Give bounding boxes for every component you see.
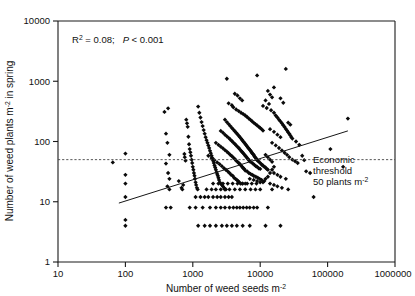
data-point xyxy=(294,139,298,143)
data-point xyxy=(223,205,227,209)
x-tick-label-10000: 10000 xyxy=(247,268,273,279)
x-tick-label-100000: 100000 xyxy=(312,268,344,279)
threshold-label-line2: threshold xyxy=(313,165,352,176)
data-point xyxy=(281,101,285,105)
data-point xyxy=(123,181,127,185)
data-point xyxy=(267,102,271,106)
data-point xyxy=(311,195,315,199)
data-point xyxy=(204,187,208,191)
data-point xyxy=(199,120,203,124)
data-point xyxy=(269,108,273,112)
data-point xyxy=(111,160,115,164)
data-point xyxy=(280,186,284,190)
data-point xyxy=(238,187,242,191)
x-axis-title-base: Number of weed seeds m xyxy=(166,283,280,294)
data-point xyxy=(274,143,278,147)
data-point xyxy=(255,73,259,77)
data-point xyxy=(203,224,207,228)
x-axis-title-exponent: -2 xyxy=(280,283,286,290)
data-point xyxy=(220,224,224,228)
y-tick-label-10: 10 xyxy=(39,196,50,207)
data-point xyxy=(211,181,215,185)
data-point xyxy=(223,195,227,199)
data-point xyxy=(265,106,269,110)
data-point xyxy=(241,224,245,228)
data-point xyxy=(235,224,239,228)
data-point xyxy=(206,195,210,199)
data-point xyxy=(196,224,200,228)
data-point xyxy=(203,195,207,199)
data-point xyxy=(188,205,192,209)
data-point xyxy=(266,89,270,93)
data-point xyxy=(227,187,231,191)
y-tick-label-10000: 10000 xyxy=(24,15,50,26)
p-value-rest: < 0.001 xyxy=(129,34,164,45)
data-point xyxy=(219,195,223,199)
data-point xyxy=(308,171,312,175)
data-point-group xyxy=(111,67,350,228)
x-axis-tick-labels: 10 100 1000 10000 100000 1000000 xyxy=(53,268,412,279)
economic-threshold-label: Economic threshold 50 plants m-2 xyxy=(313,154,368,187)
threshold-label-line3-base: 50 plants m xyxy=(313,176,362,187)
data-point xyxy=(211,195,215,199)
data-point xyxy=(185,121,189,125)
data-point xyxy=(272,171,276,175)
data-point xyxy=(200,205,204,209)
data-point xyxy=(284,67,288,71)
data-point xyxy=(346,116,350,120)
threshold-label-line3-exponent: -2 xyxy=(362,176,368,183)
data-point xyxy=(166,171,170,175)
data-point xyxy=(243,187,247,191)
data-point xyxy=(167,153,171,157)
data-point xyxy=(214,187,218,191)
data-point xyxy=(277,146,281,150)
data-point xyxy=(302,158,306,162)
y-axis-title-base1: Number of weed plants m xyxy=(4,107,15,221)
data-point xyxy=(202,128,206,132)
data-point xyxy=(186,125,190,129)
data-point xyxy=(123,218,127,222)
statistics-annotation: R2 = 0.08;P < 0.001 xyxy=(72,34,164,46)
data-point xyxy=(328,147,332,151)
data-point xyxy=(278,96,282,100)
data-point xyxy=(278,224,282,228)
y-tick-label-100: 100 xyxy=(34,136,50,147)
x-tick-label-1000: 1000 xyxy=(182,268,203,279)
plot-svg: 1 10 100 1000 10000 10 100 1000 10000 10… xyxy=(0,0,415,296)
data-point xyxy=(278,135,282,139)
data-point xyxy=(164,205,168,209)
data-point xyxy=(248,205,252,209)
data-point xyxy=(191,168,195,172)
data-point xyxy=(189,154,193,158)
y-axis-title-base2: in spring xyxy=(4,61,15,102)
threshold-label-line3: 50 plants m-2 xyxy=(313,176,368,188)
data-point xyxy=(272,130,276,134)
data-point xyxy=(167,177,171,181)
y-tick-label-1: 1 xyxy=(45,256,50,267)
data-point xyxy=(186,135,190,139)
data-point xyxy=(270,187,274,191)
data-point xyxy=(268,181,272,185)
data-point xyxy=(226,181,230,185)
data-point xyxy=(193,205,197,209)
data-point xyxy=(227,205,231,209)
data-point xyxy=(187,142,191,146)
data-point xyxy=(266,205,270,209)
x-axis-ticks xyxy=(58,262,395,267)
data-point xyxy=(214,205,218,209)
data-point xyxy=(190,161,194,165)
r-squared-rest: = 0.08; xyxy=(83,34,115,45)
data-point xyxy=(203,131,207,135)
data-point xyxy=(123,195,127,199)
data-point xyxy=(197,111,201,115)
y-axis-tick-labels: 1 10 100 1000 10000 xyxy=(24,15,50,267)
data-point xyxy=(304,169,308,173)
data-point xyxy=(263,98,267,102)
data-point xyxy=(275,132,279,136)
data-point xyxy=(233,187,237,191)
data-point xyxy=(248,177,252,181)
x-tick-label-100: 100 xyxy=(117,268,133,279)
data-point xyxy=(123,173,127,177)
data-point xyxy=(248,187,252,191)
data-point xyxy=(196,104,200,108)
